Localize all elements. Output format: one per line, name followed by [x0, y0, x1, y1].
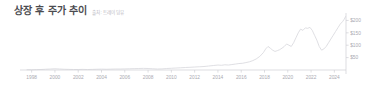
y-tick-group: $50$100$150$200 [346, 18, 361, 60]
x-tick-label: 2018 [259, 75, 270, 80]
line-chart-svg: $50$100$150$200 199820002002200420062008… [0, 0, 380, 97]
x-tick-label: 1998 [26, 75, 37, 80]
y-tick-label: $200 [350, 18, 361, 23]
y-tick-label: $100 [350, 43, 361, 48]
x-tick-label: 2014 [213, 75, 224, 80]
x-tick-label: 2010 [166, 75, 177, 80]
x-tick-label: 2016 [236, 75, 247, 80]
x-tick-label: 2008 [143, 75, 154, 80]
axis-group [20, 13, 346, 74]
chart-widget: 상장 후 주가 추이 출처: 트레이딩뷰 $50$100$150$200 199… [0, 0, 380, 97]
x-tick-label: 2024 [329, 75, 340, 80]
y-tick-label: $150 [350, 31, 361, 36]
chart-plot-area: $50$100$150$200 199820002002200420062008… [0, 0, 380, 97]
y-tick-label: $50 [350, 55, 358, 60]
x-tick-label: 2012 [189, 75, 200, 80]
x-tick-label: 2020 [282, 75, 293, 80]
x-tick-group: 1998200020022004200620082010201220142016… [26, 70, 340, 80]
x-tick-label: 2022 [306, 75, 317, 80]
series-group [27, 17, 345, 70]
series-line-0 [27, 17, 345, 70]
x-tick-label: 2000 [50, 75, 61, 80]
x-tick-label: 2004 [96, 75, 107, 80]
x-tick-label: 2006 [119, 75, 130, 80]
x-tick-label: 2002 [73, 75, 84, 80]
